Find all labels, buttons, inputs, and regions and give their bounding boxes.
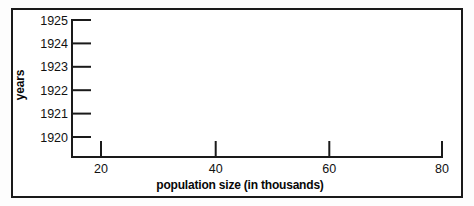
- y-tick-label-1923: 1923: [40, 60, 68, 74]
- y-tick-label-1920: 1920: [40, 131, 68, 145]
- empty-population-years-plot: 1925 1924 1923 1922 1921 1920 20 40 60 8…: [0, 0, 474, 206]
- x-tick-label-20: 20: [94, 162, 108, 176]
- x-tick-label-40: 40: [209, 162, 223, 176]
- y-tick-label-1925: 1925: [40, 14, 68, 28]
- x-axis-title: population size (in thousands): [156, 178, 324, 192]
- y-tick-label-1921: 1921: [40, 107, 68, 121]
- x-tick-label-80: 80: [435, 162, 449, 176]
- y-tick-label-1924: 1924: [40, 37, 68, 51]
- x-tick-label-60: 60: [322, 162, 336, 176]
- y-axis-title: years: [13, 69, 27, 100]
- chart-screenshot: 1925 1924 1923 1922 1921 1920 20 40 60 8…: [0, 0, 474, 206]
- y-tick-label-1922: 1922: [40, 84, 68, 98]
